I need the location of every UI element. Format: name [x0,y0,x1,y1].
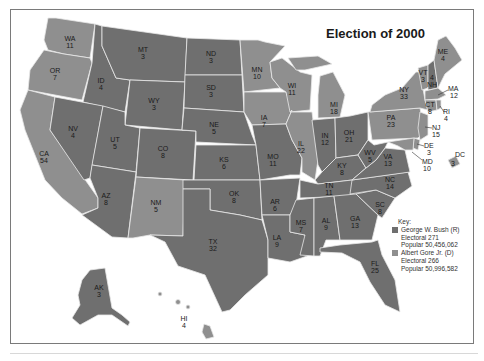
state-ri[interactable] [436,100,441,110]
legend-candidate: George W. Bush (R) [401,226,460,234]
svg-text:TX32: TX32 [209,238,218,252]
svg-text:MA12: MA12 [448,85,459,99]
state-hi-island [176,300,181,305]
svg-text:MD10: MD10 [422,158,433,172]
legend-candidate: Albert Gore Jr. (D) [401,249,454,257]
state-nj[interactable] [418,112,428,140]
svg-text:FL25: FL25 [371,260,379,274]
state-co[interactable] [136,128,196,180]
svg-text:NC14: NC14 [385,176,395,190]
legend: Key: George W. Bush (R) Electoral 271 Po… [392,218,460,273]
state-sd[interactable] [184,75,244,112]
legend-heading: Key: [392,218,460,226]
state-hi-island [186,305,190,309]
bush-swatch-icon [392,227,398,233]
svg-text:RI4: RI4 [443,108,450,122]
legend-popular: Popular 50,456,062 [392,241,460,249]
state-mi-up [288,56,332,70]
state-me[interactable] [434,36,462,88]
state-hi[interactable] [202,324,214,339]
svg-text:MN10: MN10 [252,66,263,80]
svg-text:TN11: TN11 [324,182,333,196]
state-md[interactable] [388,138,414,150]
svg-text:DE3: DE3 [424,142,434,156]
svg-text:WI11: WI11 [288,82,297,96]
svg-text:IN12: IN12 [321,132,329,146]
us-map: WA11 OR7 CA54 ID4 NV4 MT3 WY3 UT5 CO8 AZ… [0,0,484,361]
state-ak[interactable] [72,268,130,326]
svg-text:HI4: HI4 [181,315,188,329]
svg-text:OH21: OH21 [344,129,355,143]
legend-popular: Popular 50,996,582 [392,265,460,273]
svg-text:IL22: IL22 [297,140,305,154]
svg-text:PA23: PA23 [387,114,396,128]
state-fl[interactable] [320,240,400,312]
legend-electoral: Electoral 266 [392,257,460,265]
svg-text:CA54: CA54 [39,150,49,164]
svg-text:NJ15: NJ15 [432,124,441,138]
svg-text:NY33: NY33 [399,86,409,100]
legend-electoral: Electoral 271 [392,234,460,242]
legend-entry-bush: George W. Bush (R) [392,226,460,234]
svg-text:VA13: VA13 [384,153,393,167]
legend-entry-gore: Albert Gore Jr. (D) [392,249,460,257]
state-ia[interactable] [244,92,292,125]
state-hi-island [158,292,162,296]
state-pa[interactable] [368,108,424,140]
gore-swatch-icon [392,250,398,256]
leader-line-md [412,152,422,160]
svg-text:MI18: MI18 [330,101,338,115]
svg-text:DC: DC [455,151,465,158]
svg-text:GA13: GA13 [350,215,360,229]
svg-text:3: 3 [451,160,455,167]
map-title: Election of 2000 [326,26,425,41]
